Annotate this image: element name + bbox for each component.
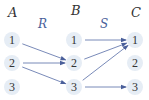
arrow-s-b3-to-c1 bbox=[83, 45, 128, 80]
node-c-2: 2 bbox=[127, 55, 143, 71]
node-label: 2 bbox=[71, 56, 77, 70]
set-a-header: A bbox=[7, 5, 17, 20]
node-label: 3 bbox=[9, 80, 15, 94]
node-a-2: 2 bbox=[4, 55, 20, 71]
relation-s-label: S bbox=[100, 17, 108, 31]
arrow-r-a2-to-b3 bbox=[22, 67, 65, 84]
node-label: 2 bbox=[9, 56, 15, 70]
node-c-1: 1 bbox=[127, 32, 143, 48]
node-a-3: 3 bbox=[4, 79, 20, 95]
node-label: 2 bbox=[132, 56, 138, 70]
node-label: 1 bbox=[9, 33, 15, 47]
node-label: 3 bbox=[71, 80, 77, 94]
relation-composition-diagram: 123123123 A B C R S bbox=[0, 0, 149, 100]
node-b-3: 3 bbox=[66, 79, 82, 95]
node-label: 1 bbox=[71, 33, 77, 47]
node-label: 1 bbox=[132, 33, 138, 47]
set-c-header: C bbox=[131, 5, 141, 20]
relation-r-label: R bbox=[37, 17, 47, 31]
node-b-2: 2 bbox=[66, 55, 82, 71]
arrow-r-a1-to-b2 bbox=[22, 44, 65, 60]
set-b-header: B bbox=[70, 3, 81, 18]
node-b-1: 1 bbox=[66, 32, 82, 48]
node-label: 3 bbox=[132, 80, 138, 94]
node-a-1: 1 bbox=[4, 32, 20, 48]
node-c-3: 3 bbox=[127, 79, 143, 95]
